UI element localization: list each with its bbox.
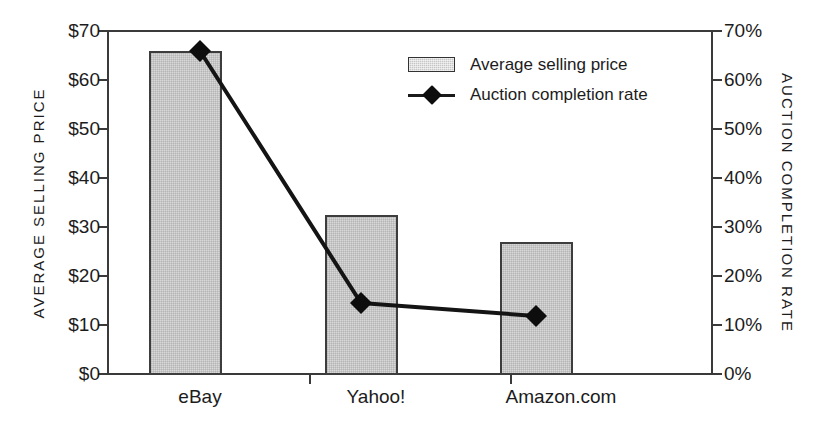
y-tick-left-label: $40	[68, 168, 100, 187]
y-tick-left-label: $70	[68, 21, 100, 40]
y-tick-right-label: 30%	[724, 217, 762, 236]
y-tick-left-label: $60	[68, 70, 100, 89]
y-tick-right-0: 0%	[724, 374, 794, 375]
y-tick-right-60: 60%	[724, 80, 794, 81]
y-tick-right-label: 60%	[724, 70, 762, 89]
y-tick-right-50: 50%	[724, 129, 794, 130]
y-tick-right-70: 70%	[724, 31, 794, 32]
legend-label: Auction completion rate	[470, 82, 648, 108]
y-tick-right-40: 40%	[724, 178, 794, 179]
legend-bar-swatch-icon	[408, 57, 455, 72]
y-axis-left-title: AVERAGE SELLING PRICE	[26, 32, 52, 374]
y-tick-left-20: $20	[28, 276, 100, 277]
y-tick-left-60: $60	[28, 80, 100, 81]
legend-diamond-marker-icon	[422, 85, 442, 105]
y-tick-left-label: $0	[79, 364, 100, 383]
y-tick-left-label: $50	[68, 119, 100, 138]
chart-figure: AVERAGE SELLING PRICE AUCTION COMPLETION…	[0, 0, 826, 425]
y-tick-left-label: $10	[68, 315, 100, 334]
chart-legend: Average selling price Auction completion…	[408, 52, 688, 112]
y-tick-right-label: 20%	[724, 266, 762, 285]
y-axis-right-ticks	[712, 31, 722, 374]
y-tick-left-10: $10	[28, 325, 100, 326]
x-category-label-yahoo: Yahoo!	[291, 386, 461, 408]
y-tick-right-30: 30%	[724, 227, 794, 228]
y-tick-left-70: $70	[28, 31, 100, 32]
y-tick-right-label: 10%	[724, 315, 762, 334]
y-tick-right-label: 0%	[724, 364, 751, 383]
y-tick-left-0: $0	[28, 374, 100, 375]
y-axis-right-title: AUCTION COMPLETION RATE	[774, 32, 800, 374]
bar-ebay	[150, 52, 221, 374]
y-tick-right-label: 70%	[724, 21, 762, 40]
y-tick-right-10: 10%	[724, 325, 794, 326]
x-axis-category-ticks	[310, 374, 511, 384]
y-tick-left-30: $30	[28, 227, 100, 228]
x-category-label-ebay: eBay	[115, 386, 285, 408]
legend-item-average-selling-price: Average selling price	[408, 52, 688, 82]
y-tick-right-label: 40%	[724, 168, 762, 187]
legend-item-auction-completion-rate: Auction completion rate	[408, 82, 688, 112]
legend-label: Average selling price	[470, 52, 628, 78]
y-tick-left-50: $50	[28, 129, 100, 130]
y-tick-left-label: $30	[68, 217, 100, 236]
y-tick-right-20: 20%	[724, 276, 794, 277]
y-tick-left-label: $20	[68, 266, 100, 285]
x-category-label-amazon: Amazon.com	[466, 386, 656, 408]
y-tick-right-label: 50%	[724, 119, 762, 138]
y-tick-left-40: $40	[28, 178, 100, 179]
